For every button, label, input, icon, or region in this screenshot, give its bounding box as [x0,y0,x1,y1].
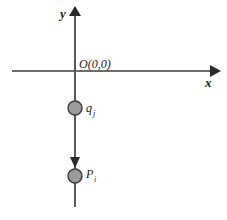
charge-marker-q [68,101,82,115]
charge-subscript-q: j [92,109,96,118]
x-axis-arrowhead [210,65,221,77]
x-axis-label: x [204,75,212,90]
physics-diagram-canvas: y x O(0,0) q j P i [0,0,227,220]
charge-subscript-p: i [94,175,96,184]
downward-direction-arrowhead [70,157,80,168]
charge-marker-p [68,169,82,183]
charge-label-q: q [86,101,92,115]
coordinate-diagram-svg: y x O(0,0) q j P i [0,0,227,220]
charge-label-p: P [85,167,94,181]
origin-label: O(0,0) [79,57,111,71]
y-axis-arrowhead [69,6,81,16]
y-axis-label: y [58,6,66,21]
